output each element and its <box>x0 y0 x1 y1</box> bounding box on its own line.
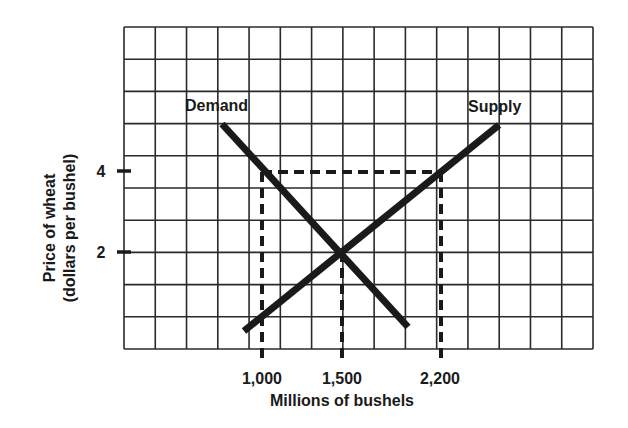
x-tick-label-2200: 2,200 <box>420 370 460 387</box>
demand-label: Demand <box>185 97 248 114</box>
x-tick-label-1500: 1,500 <box>322 370 362 387</box>
x-axis-title: Millions of bushels <box>270 392 414 409</box>
chart-grid <box>124 27 593 349</box>
x-tick-label-1000: 1,000 <box>242 370 282 387</box>
supply-demand-chart: 4 2 1,000 1,500 2,200 Millions of bushel… <box>0 0 628 428</box>
y-tick-label-2: 2 <box>97 244 106 261</box>
y-axis-title: Price of wheat <box>41 173 58 282</box>
y-axis-subtitle: (dollars per bushel) <box>61 154 78 302</box>
supply-label: Supply <box>468 98 521 115</box>
y-tick-label-4: 4 <box>97 163 106 180</box>
